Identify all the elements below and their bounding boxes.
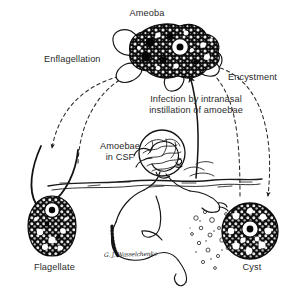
label-encystment: Encystment: [228, 72, 277, 83]
arrow-infection-route: [190, 76, 198, 178]
flagellate-nucleus: [45, 203, 60, 218]
label-amoebae-in-csf: Amoebae in CSF: [100, 141, 140, 162]
flagellate-illustration: [28, 146, 78, 256]
flagellum-right: [52, 150, 78, 203]
label-infection-line1: Infection by intranasal: [149, 94, 243, 105]
arrow-cyst-to-ameoba: [209, 70, 240, 196]
ameoba-nucleus: [172, 39, 189, 56]
cyst-illustration: [222, 203, 278, 259]
flagellum-left: [31, 146, 41, 204]
label-cyst: Cyst: [243, 262, 262, 273]
label-ameoba: Ameoba: [130, 8, 165, 19]
label-flagellate: Flagellate: [34, 262, 75, 273]
label-csf-line2: in CSF: [100, 152, 140, 163]
label-enflagellation: Enflagellation: [44, 54, 101, 65]
life-cycle-diagram: Ameoba Enflagellation Encystment Infecti…: [0, 0, 294, 292]
arrow-ameoba-to-flagellate: [52, 73, 138, 148]
cyst-nucleus: [242, 221, 258, 237]
ameoba-illustration: [113, 24, 222, 91]
label-infection-route: Infection by intranasal instillation of …: [149, 94, 243, 115]
label-csf-line1: Amoebae: [100, 141, 140, 152]
artist-signature: G. J. Wasselchenko: [104, 249, 158, 261]
label-infection-line2: instillation of amoebae: [149, 105, 243, 116]
